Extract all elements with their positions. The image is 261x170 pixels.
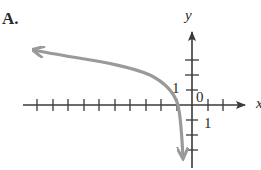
y-tick-label: 1 bbox=[172, 81, 180, 96]
choice-label: A. bbox=[2, 10, 19, 27]
x-axis-label: x bbox=[256, 96, 261, 111]
x-axis bbox=[23, 99, 245, 111]
function-graph bbox=[0, 0, 261, 170]
x-tick-label: 1 bbox=[204, 116, 212, 131]
y-axis-label: y bbox=[185, 8, 192, 23]
origin-label: 0 bbox=[196, 90, 204, 105]
